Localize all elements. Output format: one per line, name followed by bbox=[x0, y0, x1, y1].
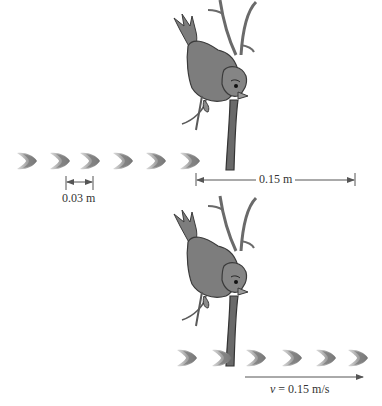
diagram-canvas bbox=[0, 0, 382, 406]
bug-icon bbox=[180, 153, 200, 169]
bug-icon bbox=[348, 350, 368, 366]
bug-icon bbox=[316, 350, 336, 366]
bug-row-top bbox=[17, 153, 200, 169]
bird-on-branch-bottom bbox=[174, 196, 256, 366]
velocity-value: = 0.15 m/s bbox=[278, 382, 329, 396]
bug-icon bbox=[146, 153, 166, 169]
distance-label: 0.15 m bbox=[259, 172, 292, 187]
bug-icon bbox=[50, 153, 70, 169]
top-panel bbox=[17, 0, 355, 190]
bug-icon bbox=[246, 350, 266, 366]
velocity-label: v = 0.15 m/s bbox=[270, 382, 329, 397]
spacing-label: 0.03 m bbox=[62, 191, 95, 206]
spacing-dimension bbox=[66, 176, 93, 190]
bug-row-bottom bbox=[177, 350, 368, 366]
bug-icon bbox=[113, 153, 133, 169]
bug-icon bbox=[282, 350, 302, 366]
bug-icon bbox=[17, 153, 37, 169]
bug-icon bbox=[177, 350, 197, 366]
bird-on-branch-top bbox=[174, 0, 256, 170]
bug-icon bbox=[80, 153, 100, 169]
bottom-panel bbox=[174, 196, 368, 377]
velocity-symbol: v bbox=[270, 382, 275, 396]
